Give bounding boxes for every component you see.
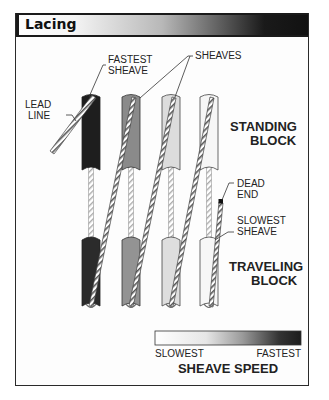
label-traveling-block-1: TRAVELING — [229, 259, 303, 274]
legend-max-label: FASTEST — [257, 348, 301, 359]
label-dead-end-1: DEAD — [237, 178, 265, 189]
label-fastest-sheave-2: SHEAVE — [108, 65, 148, 76]
rope-loops — [86, 304, 214, 308]
label-traveling-block-2: BLOCK — [251, 273, 298, 288]
label-slowest-sheave-2: SHEAVE — [237, 226, 277, 237]
label-fastest-sheave-1: FASTEST — [108, 54, 152, 65]
label-standing-block-2: BLOCK — [250, 133, 297, 148]
label-standing-block-1: STANDING — [230, 119, 297, 134]
legend-title: SHEAVE SPEED — [178, 361, 278, 376]
legend-min-label: SLOWEST — [155, 348, 204, 359]
label-lead-line-2: LINE — [28, 110, 51, 121]
label-lead-line-1: LEAD — [25, 99, 51, 110]
lacing-diagram: FASTEST SHEAVE SHEAVES LEAD LINE STANDIN… — [0, 0, 329, 400]
label-dead-end-2: END — [237, 189, 258, 200]
label-slowest-sheave-1: SLOWEST — [237, 215, 286, 226]
label-sheaves: SHEAVES — [195, 50, 242, 61]
speed-legend: SLOWEST FASTEST SHEAVE SPEED — [155, 331, 301, 376]
speed-gradient-bar — [155, 331, 301, 345]
